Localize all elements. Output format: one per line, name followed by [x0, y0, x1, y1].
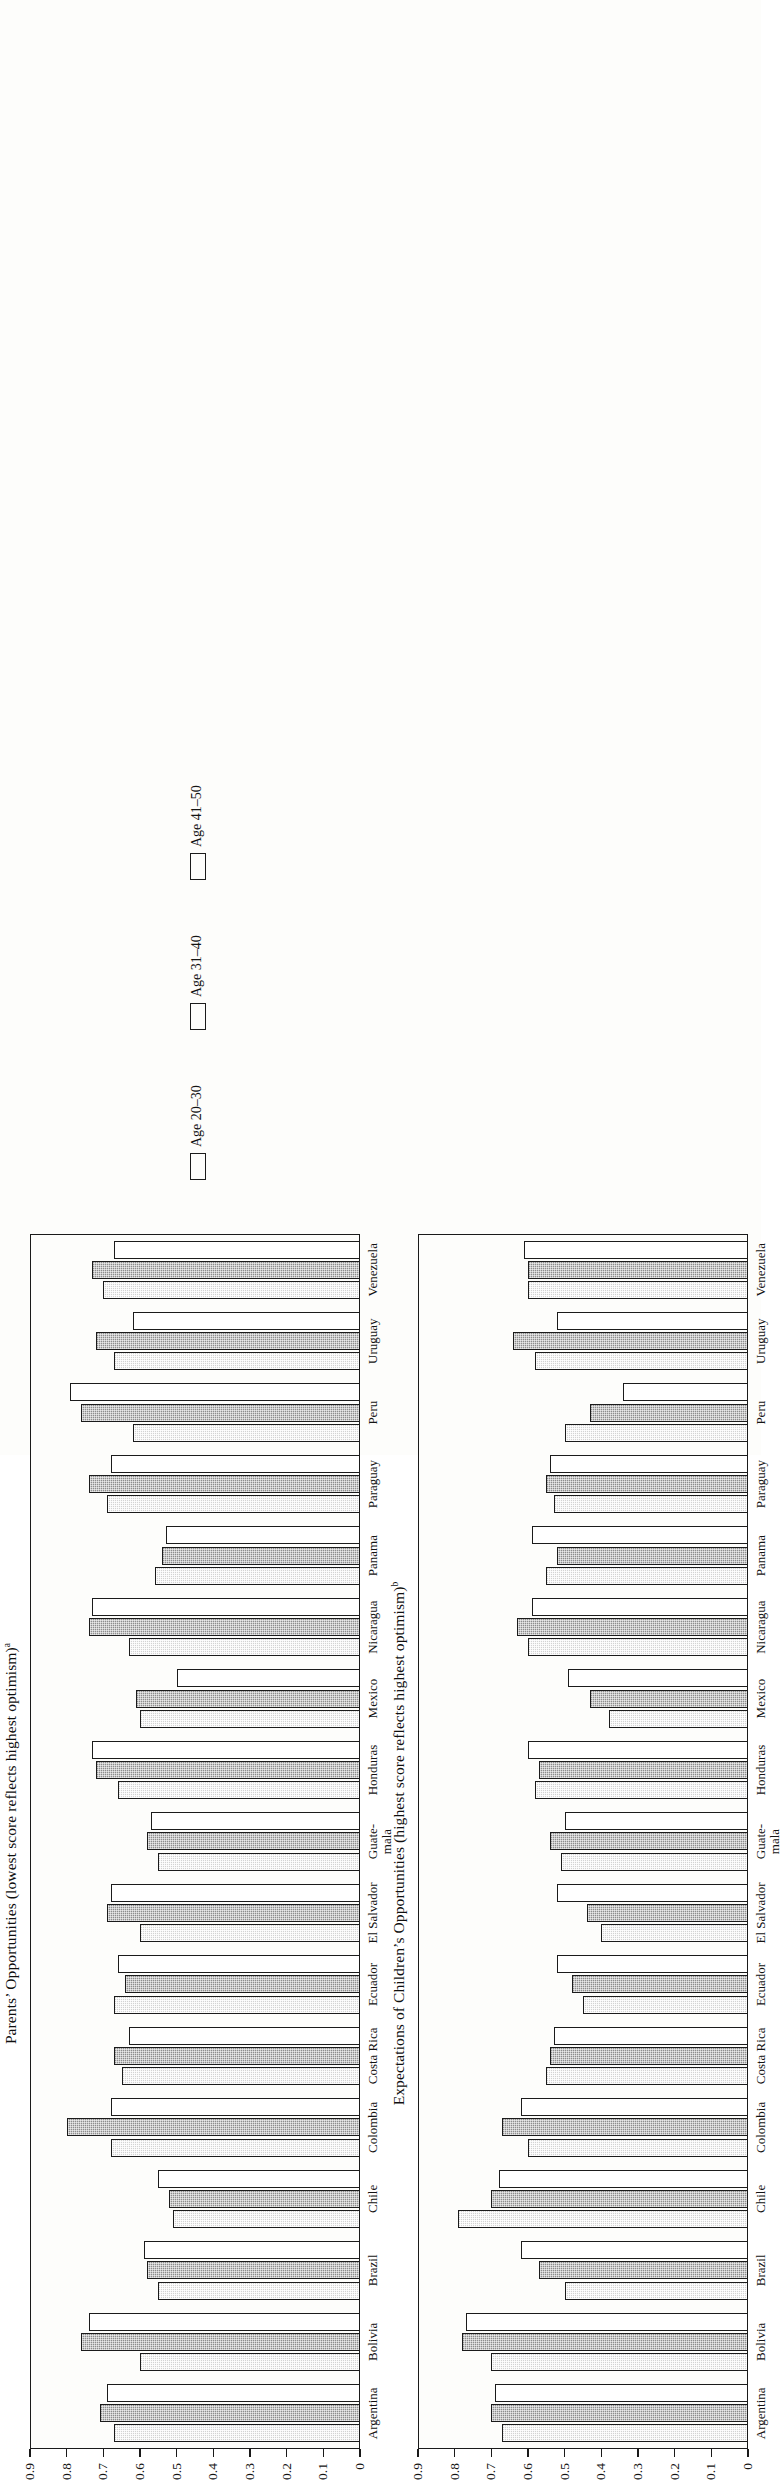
axis-tick	[249, 2449, 250, 2457]
bar	[546, 1475, 748, 1493]
bar	[528, 2139, 748, 2157]
category-label: Guate-mala	[754, 1824, 782, 1859]
bar	[554, 2027, 748, 2045]
bar	[147, 2261, 360, 2279]
bar	[532, 1598, 748, 1616]
category-label: Colombia	[754, 2102, 768, 2153]
bar	[458, 2210, 748, 2228]
axis-tick	[747, 2449, 748, 2457]
bar	[528, 1638, 748, 1656]
axis-tick-label: 0.2	[667, 2463, 683, 2480]
category-label: Nicaragua	[754, 1600, 768, 1653]
axis-tick-label: 0.7	[95, 2463, 111, 2480]
axis-tick	[491, 2449, 492, 2457]
axis-tick	[417, 2449, 418, 2457]
bar	[67, 2118, 360, 2136]
bar	[565, 1424, 748, 1442]
bar	[499, 2170, 748, 2188]
axis-tick	[359, 2449, 360, 2457]
axis-tick-label: 0.2	[279, 2463, 295, 2480]
axis-tick-label: 0.8	[447, 2463, 463, 2480]
category-label: Venezuela	[754, 1243, 768, 1296]
bar	[528, 1281, 748, 1299]
axis-tick-label: 0.6	[132, 2463, 148, 2480]
category-label: Brazil	[366, 2254, 380, 2286]
bar	[92, 1598, 360, 1616]
chart-b-block: Expectations of Children’s Opportunities…	[388, 1232, 784, 2451]
axis-tick-label: 0.1	[315, 2463, 331, 2480]
legend-label: Age 20–30	[189, 1085, 205, 1147]
category-label: Peru	[754, 1401, 768, 1425]
bar	[550, 1833, 748, 1851]
axis-tick	[176, 2449, 177, 2457]
bar	[107, 1904, 360, 1922]
axis-tick	[674, 2449, 675, 2457]
axis-tick	[637, 2449, 638, 2457]
bar	[590, 1690, 748, 1708]
bar	[495, 2384, 748, 2402]
bar	[81, 2333, 360, 2351]
legend: Age 20–30Age 31–40Age 41–50	[188, 760, 248, 1180]
bar	[100, 2404, 360, 2422]
bar	[583, 1996, 748, 2014]
bar	[70, 1383, 360, 1401]
category-label: Paraguay	[754, 1460, 768, 1508]
bar	[118, 1955, 360, 1973]
bar	[158, 1853, 360, 1871]
category-label: Costa Rica	[754, 2028, 768, 2085]
axis-tick	[213, 2449, 214, 2457]
bar	[89, 2313, 360, 2331]
bar	[528, 1741, 748, 1759]
bar	[601, 1924, 748, 1942]
bar	[92, 1261, 360, 1279]
axis-tick	[29, 2449, 30, 2457]
category-label: Venezuela	[366, 1243, 380, 1296]
bar	[158, 2170, 360, 2188]
bar	[550, 1455, 748, 1473]
category-label: Ecuador	[754, 1963, 768, 2006]
bar	[144, 2241, 360, 2259]
axis-tick-label: 0.3	[630, 2463, 646, 2480]
bar	[140, 1924, 360, 1942]
bar	[122, 2067, 360, 2085]
bar	[125, 1975, 360, 1993]
axis-tick	[139, 2449, 140, 2457]
category-label: Mexico	[754, 1679, 768, 1719]
bar	[140, 1710, 360, 1728]
bar	[491, 2404, 748, 2422]
bar	[462, 2333, 748, 2351]
bar	[557, 1312, 748, 1330]
bar	[114, 1996, 360, 2014]
category-label: Costa Rica	[366, 2028, 380, 2085]
category-label: Ecuador	[366, 1963, 380, 2006]
bar	[151, 1812, 360, 1830]
category-label: Mexico	[366, 1679, 380, 1719]
bar	[129, 2027, 360, 2045]
bar	[572, 1975, 748, 1993]
axis-tick-label: 0.3	[242, 2463, 258, 2480]
chart-expectations-children-opportunities: Expectations of Children’s Opportunities…	[388, 1232, 784, 2451]
bar	[565, 2282, 748, 2300]
bar	[550, 2047, 748, 2065]
bar	[111, 1884, 360, 1902]
bar	[491, 2353, 748, 2371]
category-label: Argentina	[754, 2387, 768, 2439]
bar	[524, 1241, 748, 1259]
bar	[568, 1669, 748, 1687]
category-label: El Salvador	[366, 1882, 380, 1943]
bar	[502, 2118, 748, 2136]
bar	[532, 1526, 748, 1544]
axis-tick-label: 0	[352, 2463, 368, 2470]
bar	[609, 1710, 748, 1728]
axis-tick	[527, 2449, 528, 2457]
category-label: Uruguay	[366, 1318, 380, 1364]
bar	[111, 1455, 360, 1473]
bar	[502, 2424, 748, 2442]
bar	[491, 2190, 748, 2208]
category-label: El Salvador	[754, 1882, 768, 1943]
bar	[539, 1761, 748, 1779]
legend-swatch	[190, 1003, 206, 1030]
bar	[114, 1241, 360, 1259]
legend-box: Age 20–30Age 31–40Age 41–50	[188, 760, 248, 1180]
axis-tick	[323, 2449, 324, 2457]
